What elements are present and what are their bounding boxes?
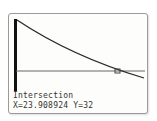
y-value: Y=32	[73, 101, 93, 110]
intersection-label: Intersection	[13, 91, 73, 100]
exponential-curve	[17, 20, 144, 78]
coordinate-readout: X=23.908924 Y=32	[13, 101, 93, 110]
x-value: X=23.908924	[13, 101, 68, 110]
